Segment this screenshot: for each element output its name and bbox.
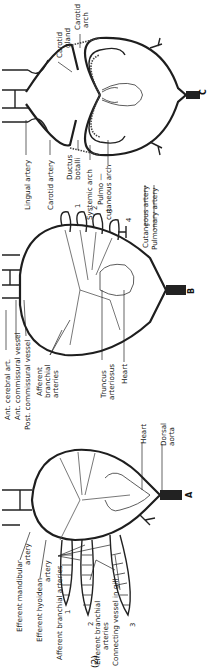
panel-letter-b: B: [187, 288, 196, 294]
label-ant-cerebral: Ant. cerebral art.: [3, 359, 12, 420]
label-truncus-2: arteriosus: [107, 364, 116, 400]
label-efferent-hyoidean: Efferent hyoidean: [35, 578, 44, 642]
label-afferent-branchial-3: arteries: [51, 370, 60, 398]
arch-number-2: 2: [91, 206, 99, 210]
gill-number-1: 1: [64, 610, 72, 614]
label-pulmonary-artery: Pulmonary artery: [150, 187, 159, 250]
label-carotid-gland-2: gland: [63, 28, 72, 48]
gill-number-2: 2: [87, 622, 95, 626]
arch-number-1: 1: [74, 204, 82, 208]
label-afferent-branchial-a: Afferent branchial arteries: [55, 565, 64, 660]
label-efferent-hyoidean-2: artery: [43, 559, 52, 582]
panel-c-drawing: [2, 38, 200, 155]
aortic-arches-diagram: Carotid gland Carotid arch Lingual arter…: [0, 0, 208, 669]
label-ductus-2: botalli: [73, 158, 82, 180]
label-heart-b: Heart: [120, 364, 129, 384]
leader-lines: [6, 34, 162, 590]
label-ant-commissural: Ant. commissural vessel: [13, 333, 22, 420]
panel-letter-c: C: [199, 89, 208, 95]
panel-letter-a: A: [185, 491, 194, 498]
label-systemic-arch: Systemic arch: [85, 169, 94, 220]
label-efferent-mandibular: Efferent mandibular: [15, 560, 24, 632]
arch-number-3: 3: [106, 209, 114, 213]
label-carotid-arch-2: arch: [81, 12, 90, 28]
arch-number-4: 4: [125, 218, 133, 222]
gill-number-3: 3: [129, 623, 137, 627]
label-cutaneous-artery: Cutaneous artery: [141, 185, 150, 248]
label-post-commissural: Post. commissural vessel: [23, 340, 32, 430]
label-heart-a: Heart: [139, 424, 148, 444]
label-lingual-artery: Lingual artery: [23, 159, 32, 210]
label-connecting-vessel: Connecting vessel in gill: [111, 579, 120, 666]
label-dorsal-aorta-2: aorta: [167, 427, 176, 446]
label-efferent-branchial-2: arteries: [101, 622, 110, 650]
panel-a-drawing: [2, 450, 182, 615]
label-efferent-mandibular-2: artery: [23, 542, 32, 565]
label-carotid-artery: Carotid artery: [46, 159, 55, 210]
figure-panel-number: (2): [90, 655, 100, 668]
